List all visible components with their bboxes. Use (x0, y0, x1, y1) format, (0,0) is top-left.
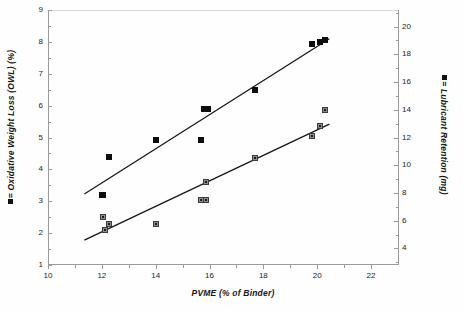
data-point-lubricant (100, 214, 106, 220)
x-tick-label: 22 (359, 272, 383, 280)
x-tick (156, 265, 157, 269)
data-point-owl (198, 137, 204, 143)
y-right-tick-label: 8 (402, 189, 426, 197)
x-tick-label: 12 (90, 272, 114, 280)
y-left-axis-title: = Oxidative Weight Loss (OWL) (%) (6, 32, 16, 222)
legend-square-lubricant-icon (442, 75, 447, 80)
y-right-tick-label: 18 (402, 50, 426, 58)
data-point-lubricant (203, 197, 209, 203)
y-right-tick-label: 14 (402, 106, 426, 114)
x-tick-label: 18 (251, 272, 275, 280)
y-right-axis-title: = Lubricant Retention (mg) (439, 45, 449, 225)
y-right-tick-label: 16 (402, 78, 426, 86)
y-right-tick-label: 6 (402, 217, 426, 225)
data-point-owl (106, 154, 112, 160)
x-tick (371, 265, 372, 269)
data-point-lubricant (106, 221, 112, 227)
y-right-tick-label: 4 (402, 244, 426, 252)
x-minor-tick (290, 265, 291, 268)
x-minor-tick (75, 265, 76, 268)
y-left-tick-label: 1 (21, 261, 43, 269)
data-point-lubricant (309, 133, 315, 139)
y-right-tick-label: 12 (402, 134, 426, 142)
x-minor-tick (183, 265, 184, 268)
x-tick-label: 20 (305, 272, 329, 280)
x-tick-label: 16 (198, 272, 222, 280)
y-left-tick-label: 4 (21, 165, 43, 173)
data-point-owl (309, 41, 315, 47)
data-point-owl (252, 87, 258, 93)
x-minor-tick (236, 265, 237, 268)
x-tick (48, 265, 49, 269)
y-left-tick-label: 6 (21, 102, 43, 110)
y-right-axis-title-text: = Lubricant Retention (mg) (439, 81, 449, 195)
y-left-tick-label: 3 (21, 197, 43, 205)
data-point-owl (205, 106, 211, 112)
x-axis-title: PVME (% of Binder) (148, 288, 318, 298)
data-point-lubricant (317, 123, 323, 129)
y-left-tick-label: 5 (21, 134, 43, 142)
figure-canvas: 123456789 468101214161820 10121416182022… (0, 0, 463, 310)
data-point-owl (100, 192, 106, 198)
data-point-lubricant (252, 155, 258, 161)
x-tick-label: 10 (36, 272, 60, 280)
data-point-lubricant (203, 179, 209, 185)
axis-right-spine (398, 10, 399, 265)
y-right-tick-label: 10 (402, 161, 426, 169)
x-minor-tick (344, 265, 345, 268)
y-left-tick-label: 2 (21, 229, 43, 237)
x-tick (102, 265, 103, 269)
legend-square-owl-icon (8, 199, 13, 204)
y-left-tick-label: 9 (21, 6, 43, 14)
y-left-tick-label: 7 (21, 70, 43, 78)
x-minor-tick (129, 265, 130, 268)
x-tick (317, 265, 318, 269)
data-point-lubricant (153, 221, 159, 227)
data-point-lubricant (102, 227, 108, 233)
data-point-owl (153, 137, 159, 143)
data-point-lubricant (322, 107, 328, 113)
y-right-tick-label: 20 (402, 23, 426, 31)
y-left-axis-title-text: = Oxidative Weight Loss (OWL) (%) (6, 50, 16, 198)
data-point-owl (322, 37, 328, 43)
data-points-layer (48, 10, 398, 265)
x-tick (210, 265, 211, 269)
y-left-tick-label: 8 (21, 38, 43, 46)
x-tick (263, 265, 264, 269)
x-tick-label: 14 (144, 272, 168, 280)
